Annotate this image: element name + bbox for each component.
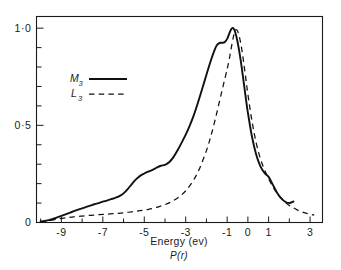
legend-sublabel-L3: 3 — [78, 94, 83, 103]
legend-label-L3: L — [71, 87, 77, 99]
x-tick-label: -9 — [56, 226, 66, 238]
x-axis-title: Energy (ev) — [150, 235, 208, 247]
y-tick-label: 0 — [25, 216, 31, 228]
x-tick-label: 1 — [265, 226, 271, 238]
chart-canvas: 00·51·0 -9-7-5-3-1013 M 3 L 3 Energy (ev… — [0, 0, 341, 270]
x-tick-label: -1 — [222, 226, 232, 238]
y-axis-tick-labels: 00·51·0 — [15, 22, 32, 228]
y-tick-label: 1·0 — [15, 22, 32, 34]
x-tick-label: -5 — [139, 226, 149, 238]
x-tick-label: 3 — [307, 226, 313, 238]
legend: M 3 L 3 — [70, 72, 127, 103]
plot-frame — [37, 17, 323, 223]
y-axis-ticks — [37, 28, 44, 222]
x-axis-ticks — [41, 217, 310, 223]
x-tick-label: 0 — [245, 226, 251, 238]
figure-container: 00·51·0 -9-7-5-3-1013 M 3 L 3 Energy (ev… — [0, 0, 341, 270]
series-line-L3 — [41, 30, 315, 222]
y-tick-label: 0·5 — [15, 119, 32, 131]
figure-caption: P(r) — [170, 250, 188, 261]
x-tick-label: -7 — [98, 226, 108, 238]
series-line-M3 — [41, 28, 294, 222]
legend-sublabel-M3: 3 — [79, 79, 84, 88]
